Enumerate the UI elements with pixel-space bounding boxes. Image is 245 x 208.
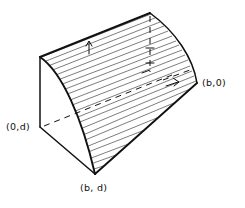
label-base-corner: (b, d): [80, 183, 107, 193]
label-origin-depth: (0,d): [6, 122, 30, 132]
label-base-width: (b,0): [202, 78, 226, 88]
solid-fills: [40, 13, 197, 174]
geometry-figure: (0,d) (b,0) (b, d): [0, 0, 245, 208]
solid-figure-drawing: [0, 0, 245, 208]
